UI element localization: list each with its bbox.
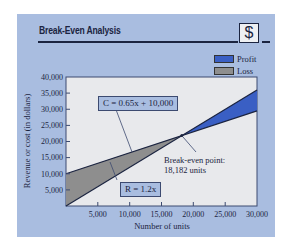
svg-text:10,000: 10,000 xyxy=(119,210,141,219)
svg-text:40,000: 40,000 xyxy=(41,73,63,82)
svg-text:25,000: 25,000 xyxy=(41,121,63,130)
break-even-label-line1: Break-even point: xyxy=(164,155,225,165)
svg-text:30,000: 30,000 xyxy=(246,210,268,219)
svg-text:35,000: 35,000 xyxy=(41,89,63,98)
revenue-equation-callout: R = 1.2x xyxy=(120,182,161,197)
svg-text:20,000: 20,000 xyxy=(41,137,63,146)
y-axis-label: Revenue or cost (in dollars) xyxy=(22,94,32,189)
svg-text:30,000: 30,000 xyxy=(41,105,63,114)
svg-text:20,000: 20,000 xyxy=(182,210,204,219)
svg-text:5,000: 5,000 xyxy=(89,210,107,219)
break-even-label: Break-even point: 18,182 units xyxy=(164,155,225,175)
cost-equation-callout: C = 0.65x + 10,000 xyxy=(98,96,178,111)
break-even-label-line2: 18,182 units xyxy=(164,165,225,175)
svg-text:10,000: 10,000 xyxy=(41,170,63,179)
svg-text:15,000: 15,000 xyxy=(41,153,63,162)
break-even-point xyxy=(180,134,183,137)
break-even-chart: 5,000 10,000 15,000 20,000 25,000 30,000… xyxy=(0,0,291,251)
svg-text:15,000: 15,000 xyxy=(151,210,173,219)
x-axis-label: Number of units xyxy=(134,221,190,231)
svg-text:5,000: 5,000 xyxy=(45,186,63,195)
svg-text:25,000: 25,000 xyxy=(214,210,236,219)
